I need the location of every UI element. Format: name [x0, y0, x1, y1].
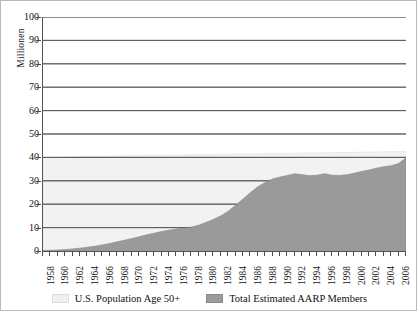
x-axis-tick-mark [190, 252, 191, 256]
x-axis-tick-mark [49, 252, 50, 256]
x-axis-tick-mark [375, 252, 376, 256]
x-axis-tick-mark [42, 252, 43, 256]
y-axis-tick-mark [36, 87, 41, 88]
x-axis-tick-mark [212, 252, 213, 256]
x-axis-tick-mark [257, 252, 258, 256]
y-axis-tick-mark [36, 204, 41, 205]
legend-item[interactable]: Total Estimated AARP Members [206, 293, 367, 304]
x-axis-tick-label: 1972 [149, 266, 159, 285]
x-axis-tick-labels: 1958196019621964196619681970197219741976… [42, 253, 405, 289]
y-axis-tick-mark [36, 251, 41, 252]
x-axis-tick-label: 1984 [238, 266, 248, 285]
y-axis-tick-mark [36, 40, 41, 41]
x-axis-tick-label: 1978 [194, 266, 204, 285]
x-axis-tick-mark [309, 252, 310, 256]
plot-area [42, 17, 406, 252]
x-axis-tick-mark [183, 252, 184, 256]
x-axis-tick-mark [264, 252, 265, 256]
x-axis-tick-mark [242, 252, 243, 256]
x-axis-tick-mark [235, 252, 236, 256]
x-axis-tick-mark [138, 252, 139, 256]
x-axis-tick-label: 1980 [208, 266, 218, 285]
x-axis-tick-mark [146, 252, 147, 256]
x-axis-tick-label: 2004 [386, 266, 396, 285]
x-axis-tick-label: 1970 [134, 266, 144, 285]
x-axis-tick-label: 1994 [312, 266, 322, 285]
x-axis-tick-mark [398, 252, 399, 256]
x-axis-tick-label: 1964 [90, 266, 100, 285]
x-axis-tick-label: 1992 [297, 266, 307, 285]
x-axis-tick-label: 1968 [120, 266, 130, 285]
x-axis-tick-label: 1962 [75, 266, 85, 285]
x-axis-tick-mark [72, 252, 73, 256]
y-axis-tick-mark [36, 228, 41, 229]
legend-label: Total Estimated AARP Members [229, 293, 367, 304]
x-axis-tick-label: 1990 [283, 266, 293, 285]
x-axis-tick-mark [220, 252, 221, 256]
x-axis-tick-mark [353, 252, 354, 256]
x-axis-tick-label: 2006 [401, 266, 411, 285]
x-axis-tick-mark [405, 252, 406, 256]
x-axis-tick-mark [249, 252, 250, 256]
x-axis-tick-mark [279, 252, 280, 256]
area-chart-svg [43, 17, 406, 251]
x-axis-tick-mark [86, 252, 87, 256]
legend-label: U.S. Population Age 50+ [75, 293, 180, 304]
x-axis-tick-mark [294, 252, 295, 256]
legend-swatch [52, 294, 69, 303]
x-axis-tick-mark [64, 252, 65, 256]
chart-frame: Millionen 0102030405060708090100 1958196… [0, 0, 417, 311]
x-axis-tick-label: 1960 [60, 266, 70, 285]
x-axis-tick-mark [109, 252, 110, 256]
x-axis-tick-label: 1974 [164, 266, 174, 285]
x-axis-tick-label: 1976 [179, 266, 189, 285]
x-axis-tick-label: 1998 [342, 266, 352, 285]
x-axis-tick-mark [205, 252, 206, 256]
x-axis-tick-mark [338, 252, 339, 256]
y-axis-tick-mark [36, 134, 41, 135]
x-axis-tick-mark [227, 252, 228, 256]
x-axis-tick-label: 1986 [253, 266, 263, 285]
x-axis-tick-label: 2002 [371, 266, 381, 285]
x-axis-tick-label: 1958 [46, 266, 56, 285]
x-axis-tick-mark [316, 252, 317, 256]
x-axis-tick-label: 1966 [105, 266, 115, 285]
x-axis-tick-mark [175, 252, 176, 256]
x-axis-tick-mark [346, 252, 347, 256]
x-axis-tick-mark [324, 252, 325, 256]
x-axis-tick-mark [131, 252, 132, 256]
x-axis-tick-mark [368, 252, 369, 256]
x-axis-tick-mark [79, 252, 80, 256]
x-axis-tick-mark [272, 252, 273, 256]
x-axis-tick-mark [198, 252, 199, 256]
x-axis-tick-mark [361, 252, 362, 256]
x-axis-tick-mark [286, 252, 287, 256]
x-axis-tick-label: 1996 [327, 266, 337, 285]
x-axis-tick-label: 1982 [223, 266, 233, 285]
x-axis-tick-label: 2000 [357, 266, 367, 285]
y-axis-tick-labels: 0102030405060708090100 [9, 1, 39, 311]
y-axis-tick-mark [36, 157, 41, 158]
x-axis-tick-mark [153, 252, 154, 256]
x-axis-tick-mark [301, 252, 302, 256]
legend-item[interactable]: U.S. Population Age 50+ [52, 293, 180, 304]
x-axis-tick-mark [390, 252, 391, 256]
x-axis-tick-mark [168, 252, 169, 256]
x-axis-tick-mark [123, 252, 124, 256]
y-axis-tick-mark [36, 64, 41, 65]
chart-legend: U.S. Population Age 50+Total Estimated A… [1, 289, 417, 307]
x-axis-tick-mark [101, 252, 102, 256]
x-axis-tick-mark [94, 252, 95, 256]
y-axis-tick-mark [36, 17, 41, 18]
x-axis-tick-label: 1988 [268, 266, 278, 285]
x-axis-tick-mark [116, 252, 117, 256]
y-axis-tick-mark [36, 181, 41, 182]
x-axis-tick-mark [57, 252, 58, 256]
x-axis-tick-mark [161, 252, 162, 256]
x-axis-tick-mark [383, 252, 384, 256]
y-axis-tick-mark [36, 111, 41, 112]
x-axis-tick-mark [331, 252, 332, 256]
legend-swatch [206, 294, 223, 303]
